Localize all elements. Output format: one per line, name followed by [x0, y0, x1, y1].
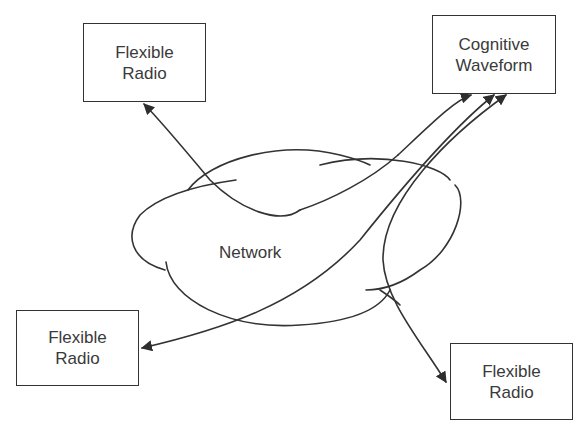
node-label-line2: Radio	[489, 382, 533, 403]
node-label-line2: Radio	[55, 348, 99, 369]
network-cloud-outline	[132, 150, 461, 326]
node-label-line1: Cognitive	[459, 34, 530, 55]
node-flexible-radio-top-left: Flexible Radio	[83, 23, 206, 102]
node-label-line1: Flexible	[48, 327, 107, 348]
node-cognitive-waveform: Cognitive Waveform	[432, 15, 556, 94]
network-cloud-label: Network	[219, 243, 281, 263]
node-label-line2: Waveform	[456, 55, 533, 76]
arrow-to-radio-top-left	[144, 104, 300, 216]
node-flexible-radio-bottom-right: Flexible Radio	[450, 343, 573, 420]
arrow-bottom-left-to-cognitive	[142, 95, 494, 348]
arrow-bottom-right-to-cognitive	[383, 95, 506, 382]
node-label-line1: Flexible	[482, 361, 541, 382]
node-label-line1: Flexible	[115, 42, 174, 63]
node-flexible-radio-bottom-left: Flexible Radio	[16, 310, 139, 386]
node-label-line2: Radio	[122, 63, 166, 84]
